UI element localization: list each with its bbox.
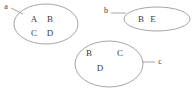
element-c-3: D bbox=[97, 63, 104, 73]
element-a-4: D bbox=[47, 28, 54, 38]
set-ellipse-a[interactable] bbox=[14, 4, 78, 44]
set-diagram: a A B C D b B E c B C D bbox=[0, 0, 193, 89]
set-group-c[interactable]: c B C D bbox=[75, 41, 162, 87]
set-label-b: b bbox=[104, 6, 108, 15]
set-group-a[interactable]: a A B C D bbox=[4, 2, 78, 44]
set-label-a: a bbox=[4, 2, 8, 11]
set-group-b[interactable]: b B E bbox=[104, 6, 190, 31]
element-a-3: C bbox=[31, 28, 37, 38]
element-c-1: B bbox=[86, 48, 92, 58]
set-label-c: c bbox=[158, 57, 162, 66]
element-a-1: A bbox=[31, 14, 38, 24]
element-a-2: B bbox=[47, 14, 53, 24]
set-ellipse-b[interactable] bbox=[124, 7, 190, 31]
element-b-1: B bbox=[138, 14, 144, 24]
element-c-2: C bbox=[117, 48, 123, 58]
diagram-canvas: a A B C D b B E c B C D bbox=[0, 0, 193, 89]
element-b-2: E bbox=[150, 14, 156, 24]
